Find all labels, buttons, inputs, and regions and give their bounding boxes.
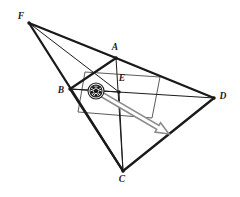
soccer-ball — [88, 83, 104, 99]
ball-patch — [97, 86, 100, 89]
ball-patch — [95, 94, 98, 97]
geometry-figure: FABEDC — [0, 0, 240, 197]
ray-F-E — [29, 23, 119, 92]
vertex-point-a — [114, 56, 117, 59]
edge-A-D — [116, 58, 214, 98]
edge-F-A — [29, 23, 116, 58]
ball-patch — [92, 86, 95, 89]
ball-patch — [91, 91, 94, 94]
vertex-point-c — [121, 169, 124, 172]
vertex-label-b: B — [57, 85, 64, 95]
figure-canvas: FABEDC — [0, 0, 240, 197]
vertex-point-f — [27, 21, 30, 24]
vertex-label-f: F — [17, 11, 25, 21]
vertex-point-d — [212, 96, 215, 99]
vertex-label-e: E — [118, 73, 125, 83]
motion-arrow — [100, 92, 169, 134]
ball-patch — [98, 91, 101, 94]
vertex-label-c: C — [119, 174, 126, 184]
vertex-point-b — [68, 87, 71, 90]
vertex-label-a: A — [111, 42, 118, 52]
vertex-point-e — [117, 90, 120, 93]
vertex-label-d: D — [219, 91, 227, 101]
